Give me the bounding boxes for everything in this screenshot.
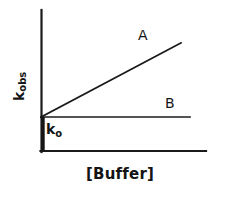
- k-zero-label: ko: [46, 122, 62, 139]
- x-axis-label: [Buffer]: [86, 167, 154, 182]
- k-zero-label-main: k: [46, 121, 55, 137]
- kinetics-plot-figure: A B ko kobs [Buffer]: [0, 0, 229, 198]
- series-a-label: A: [138, 28, 148, 42]
- series-b-label: B: [165, 96, 175, 110]
- y-axis-label: kobs: [12, 53, 29, 119]
- y-axis-label-subscript: obs: [17, 72, 28, 92]
- series-a-line: [41, 43, 181, 117]
- k-zero-label-subscript: o: [55, 128, 62, 139]
- y-axis-label-main: k: [11, 92, 27, 101]
